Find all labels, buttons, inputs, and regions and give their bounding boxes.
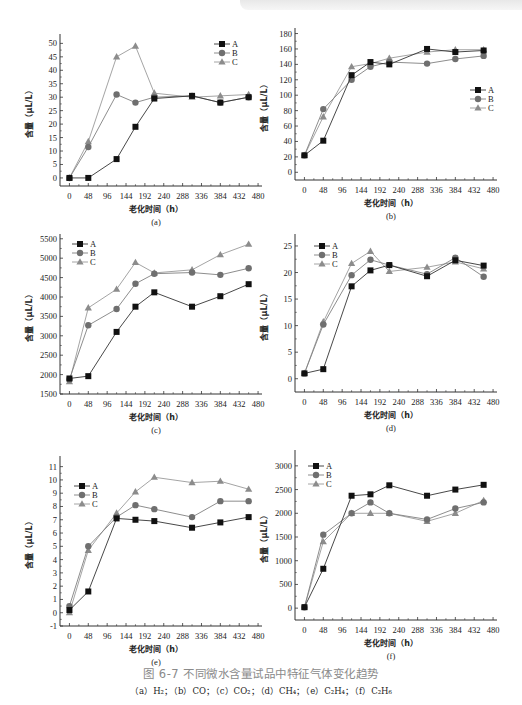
y-tick-label: 60 (284, 121, 293, 131)
legend-marker (474, 104, 481, 110)
y-tick-label: 10 (49, 146, 58, 156)
y-tick-label: 80 (284, 106, 293, 116)
data-point (245, 240, 252, 246)
data-point (217, 92, 224, 98)
data-point (246, 514, 252, 520)
y-tick-label: 2000 (275, 508, 292, 518)
x-axis-title: 老化时间（h） (363, 410, 418, 420)
x-tick-label: 0 (67, 399, 71, 409)
x-tick-label: 336 (430, 625, 443, 635)
data-point (481, 48, 487, 54)
x-axis-title: 老化时间（h） (128, 412, 183, 422)
data-point (85, 175, 91, 181)
panel-label: (c) (151, 425, 161, 435)
data-point (246, 281, 252, 287)
y-axis-title: 含量（μL/L） (24, 86, 34, 137)
series-a (301, 46, 486, 158)
legend: ABC (214, 39, 239, 67)
data-point (452, 49, 458, 55)
legend-item-c: C (74, 499, 98, 509)
series-a (301, 482, 486, 610)
data-point (217, 519, 223, 525)
panel-label: (a) (151, 217, 161, 227)
y-axis-title: 含量（μL/L） (24, 517, 34, 568)
data-point (85, 144, 91, 150)
x-tick-label: 336 (430, 185, 443, 195)
legend-marker (319, 252, 325, 258)
x-tick-label: 0 (67, 631, 71, 641)
y-tick-label: 0 (53, 608, 57, 618)
series-b (66, 91, 252, 181)
y-tick-label: 500 (279, 579, 292, 589)
y-tick-label: 20 (49, 119, 58, 129)
y-tick-label: 2000 (40, 370, 57, 380)
x-tick-label: 432 (233, 399, 246, 409)
y-tick-label: 5500 (40, 234, 57, 244)
y-axis-title: 含量（μL/L） (259, 511, 269, 562)
legend-label: C (90, 257, 96, 267)
data-point (132, 99, 138, 105)
series-a (66, 281, 251, 381)
y-tick-label: 25 (284, 241, 293, 251)
y-tick-label: 5 (53, 541, 57, 551)
data-point (132, 488, 139, 494)
data-point (151, 271, 157, 277)
y-tick-label: 4 (53, 555, 58, 565)
y-tick-label: 5 (288, 347, 292, 357)
chart-f-c2h6: 0500100015002000250030000489614419224028… (262, 446, 522, 651)
x-tick-label: 0 (302, 397, 306, 407)
x-tick-label: 240 (392, 625, 405, 635)
y-tick-label: 5000 (40, 253, 57, 263)
x-tick-label: 144 (120, 631, 134, 641)
y-tick-label: 100 (279, 90, 292, 100)
series-b (66, 498, 252, 609)
x-tick-label: 336 (195, 191, 208, 201)
x-tick-label: 288 (176, 191, 189, 201)
y-tick-label: 10 (49, 475, 58, 485)
x-tick-label: 384 (449, 397, 463, 407)
legend: ABC (470, 85, 495, 113)
legend-marker (313, 472, 319, 478)
legend: ABC (308, 461, 333, 489)
data-point (349, 72, 355, 78)
x-tick-label: 0 (302, 625, 306, 635)
y-tick-label: 0 (53, 173, 57, 183)
legend-label: C (332, 259, 338, 269)
data-point (452, 505, 458, 511)
data-point (245, 265, 251, 271)
y-tick-label: 6 (53, 528, 57, 538)
legend-label: C (92, 499, 98, 509)
data-point (452, 487, 458, 493)
data-point (424, 273, 430, 279)
chart-b-co: 0204060801001201401601800489614419224028… (262, 26, 522, 231)
y-tick-label: 2500 (40, 350, 57, 360)
legend-marker (76, 258, 83, 264)
x-tick-label: 288 (411, 625, 424, 635)
data-point (132, 124, 138, 130)
data-point (386, 262, 392, 268)
data-point (424, 493, 430, 499)
data-point (367, 59, 373, 65)
axes: 051015202504896144192240288336384432480 (284, 234, 500, 407)
y-tick-label: 40 (49, 65, 58, 75)
x-tick-label: 96 (103, 399, 112, 409)
x-tick-label: 96 (338, 625, 347, 635)
data-point (367, 499, 373, 505)
data-point (217, 293, 223, 299)
data-point (189, 93, 195, 99)
y-tick-label: 3500 (40, 311, 57, 321)
y-tick-label: -1 (50, 621, 57, 631)
panel-label: (f) (387, 651, 396, 661)
data-point (217, 272, 223, 278)
x-tick-label: 240 (157, 399, 170, 409)
x-tick-label: 96 (103, 631, 112, 641)
y-tick-label: 15 (49, 133, 58, 143)
legend-item-c: C (314, 259, 338, 269)
x-axis-title: 老化时间（h） (363, 198, 418, 208)
x-tick-label: 144 (120, 191, 134, 201)
legend-marker (77, 250, 83, 256)
data-point (452, 257, 458, 263)
legend-label: C (232, 57, 238, 67)
data-point (217, 477, 224, 483)
legend-label: C (488, 103, 494, 113)
